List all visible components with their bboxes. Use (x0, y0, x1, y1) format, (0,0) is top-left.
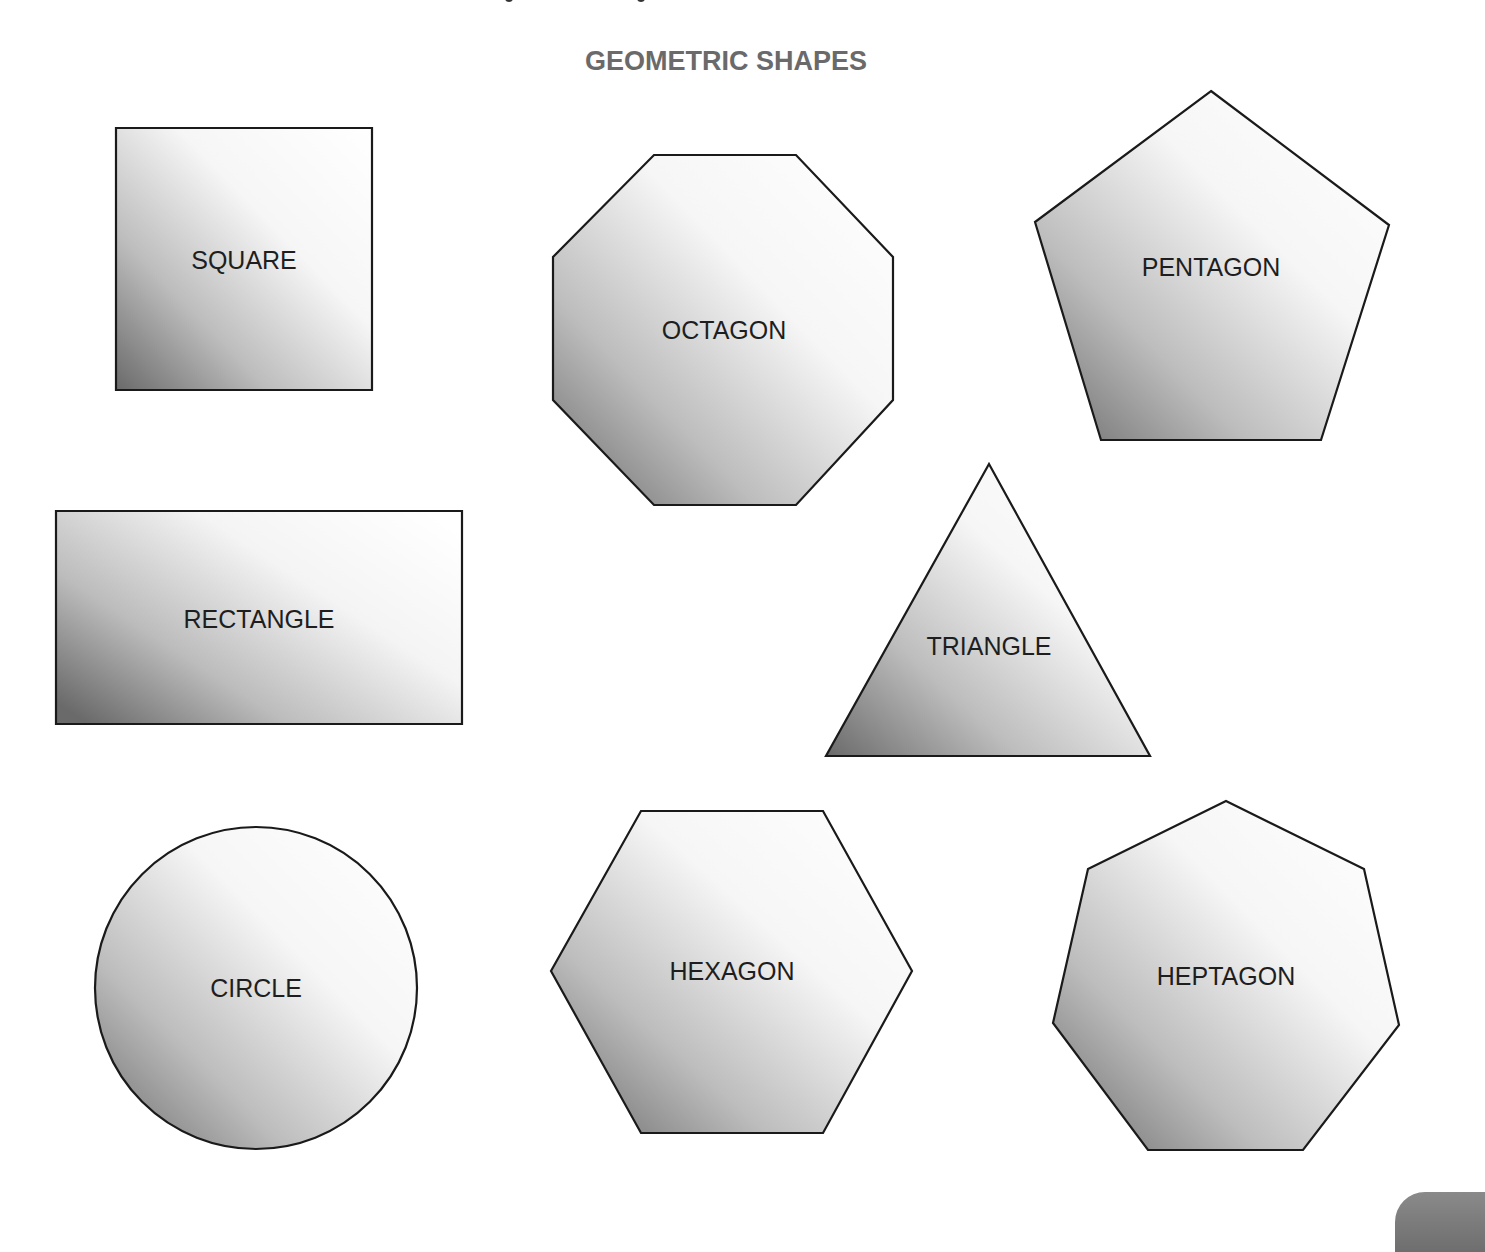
page-corner-tab (1395, 1192, 1485, 1252)
square-label: SQUARE (191, 246, 297, 274)
rectangle-label: RECTANGLE (184, 605, 335, 633)
triangle-label: TRIANGLE (926, 632, 1051, 660)
shape-triangle: TRIANGLE (826, 464, 1150, 756)
hexagon-label: HEXAGON (669, 957, 794, 985)
shape-circle: CIRCLE (95, 827, 417, 1149)
pentagon-label: PENTAGON (1142, 253, 1280, 281)
shape-heptagon: HEPTAGON (1053, 801, 1399, 1150)
triangle-shape (826, 464, 1150, 756)
heptagon-label: HEPTAGON (1157, 962, 1295, 990)
circle-label: CIRCLE (210, 974, 302, 1002)
octagon-label: OCTAGON (662, 316, 787, 344)
shape-octagon: OCTAGON (553, 155, 893, 505)
shape-square: SQUARE (116, 128, 372, 390)
shape-pentagon: PENTAGON (1035, 91, 1389, 440)
shape-rectangle: RECTANGLE (56, 511, 462, 724)
shape-hexagon: HEXAGON (551, 811, 912, 1133)
